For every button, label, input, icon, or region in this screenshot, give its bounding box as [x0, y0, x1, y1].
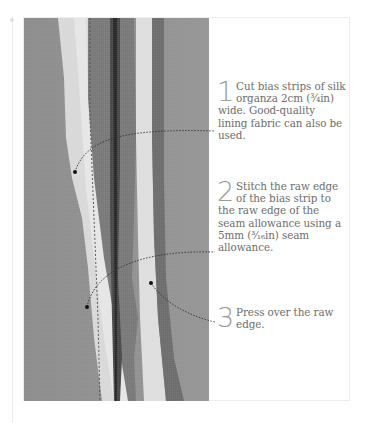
step-text: Cut bias strips of silk organza 2cm (¾in…	[218, 80, 345, 141]
step-number: 1	[217, 81, 234, 103]
step-number: 3	[217, 307, 234, 329]
step-number: 2	[217, 181, 234, 203]
margin-marker	[10, 18, 14, 22]
step-text: Stitch the raw edge of the bias strip to…	[218, 180, 341, 253]
page-margin-rule	[12, 16, 13, 423]
step-2: 2Stitch the raw edge of the bias strip t…	[218, 180, 346, 253]
step-text: Press over the raw edge.	[236, 306, 333, 330]
step-1: 1Cut bias strips of silk organza 2cm (¾i…	[218, 80, 346, 141]
step-3: 3Press over the raw edge.	[218, 306, 346, 330]
clipped-text-above	[0, 0, 370, 2]
seam-photo	[24, 18, 209, 401]
seam-photo-illustration	[24, 18, 209, 401]
